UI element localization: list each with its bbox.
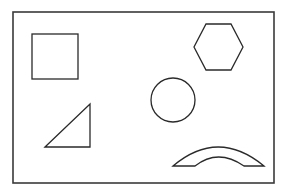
frame-border — [13, 12, 274, 183]
arch-shape — [173, 147, 264, 166]
triangle-shape — [45, 104, 90, 147]
hexagon-shape — [194, 24, 243, 70]
shapes-diagram — [0, 0, 289, 188]
circle-shape — [151, 78, 195, 122]
square-shape — [32, 34, 78, 79]
